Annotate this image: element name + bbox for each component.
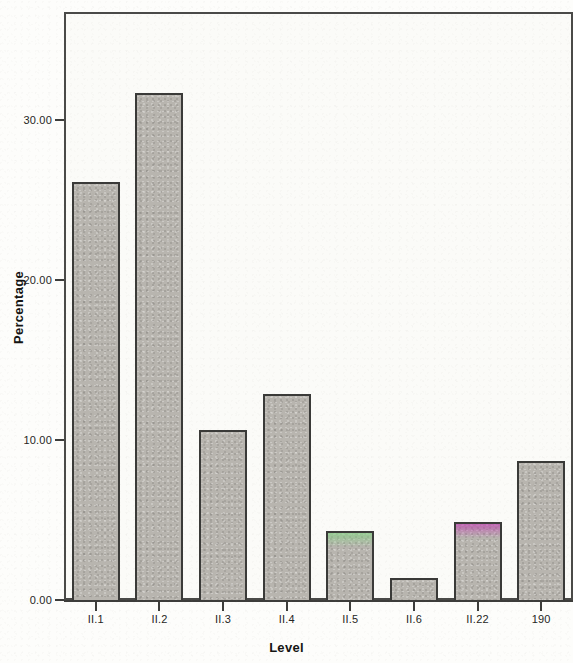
bar-texture bbox=[456, 524, 500, 600]
bar bbox=[517, 461, 565, 600]
y-tick-label: 20.00 bbox=[23, 273, 52, 287]
x-tick-mark bbox=[286, 602, 288, 611]
x-axis-line bbox=[64, 600, 573, 602]
y-tick: 20.00 bbox=[0, 273, 64, 287]
y-tick: 0.00 bbox=[0, 593, 64, 607]
bar bbox=[263, 394, 311, 600]
x-tick-label: II.6 bbox=[379, 613, 449, 625]
bar-texture bbox=[265, 396, 309, 600]
y-tick: 10.00 bbox=[0, 433, 64, 447]
x-tick-mark bbox=[413, 602, 415, 611]
x-tick-mark bbox=[477, 602, 479, 611]
x-tick-label: II.4 bbox=[252, 613, 322, 625]
x-tick-label: II.2 bbox=[124, 613, 194, 625]
bar bbox=[199, 430, 247, 600]
x-tick-mark bbox=[222, 602, 224, 611]
y-tick-mark bbox=[55, 599, 64, 601]
bar-texture bbox=[392, 580, 436, 600]
y-tick: 30.00 bbox=[0, 113, 64, 127]
bar-texture bbox=[519, 463, 563, 600]
x-tick-label: II.22 bbox=[443, 613, 513, 625]
bar bbox=[135, 93, 183, 600]
x-tick-label: II.3 bbox=[188, 613, 258, 625]
bar bbox=[454, 522, 502, 600]
bar bbox=[72, 182, 120, 600]
x-axis-title: Level bbox=[0, 640, 573, 655]
bar-texture bbox=[201, 432, 245, 600]
y-tick-mark bbox=[55, 439, 64, 441]
x-tick-mark bbox=[540, 602, 542, 611]
y-tick-mark bbox=[55, 119, 64, 121]
x-tick-mark bbox=[158, 602, 160, 611]
x-tick-label: II.1 bbox=[61, 613, 131, 625]
bar bbox=[326, 531, 374, 600]
y-tick-label: 0.00 bbox=[30, 593, 52, 607]
bar-texture bbox=[328, 533, 372, 600]
y-tick-label: 30.00 bbox=[23, 113, 52, 127]
x-tick-label: 190 bbox=[506, 613, 573, 625]
y-axis-title: Percentage bbox=[11, 238, 26, 378]
y-tick-label: 10.00 bbox=[23, 433, 52, 447]
bar-chart-figure: Percentage 0.0010.0020.0030.00 II.1II.2I… bbox=[0, 0, 573, 663]
bar-texture bbox=[74, 184, 118, 600]
y-tick-mark bbox=[55, 279, 64, 281]
x-tick-label: II.5 bbox=[315, 613, 385, 625]
bar-texture bbox=[137, 95, 181, 600]
bar bbox=[390, 578, 438, 600]
x-tick-mark bbox=[95, 602, 97, 611]
x-tick-mark bbox=[349, 602, 351, 611]
